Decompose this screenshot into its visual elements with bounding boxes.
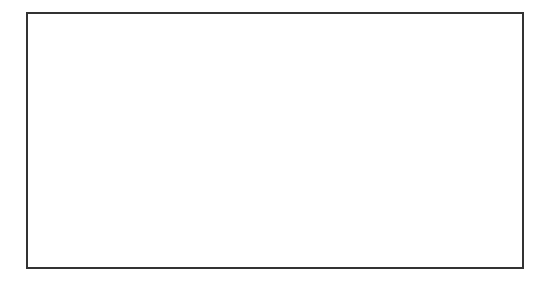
- viewport-canvas[interactable]: [0, 0, 550, 287]
- 3d-viewport[interactable]: [0, 0, 550, 287]
- page-background: [0, 0, 550, 287]
